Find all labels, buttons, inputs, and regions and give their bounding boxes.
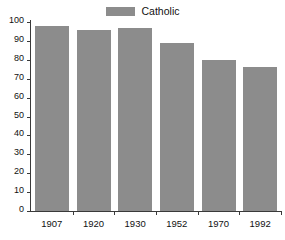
y-axis-tick-label: 0 bbox=[19, 205, 24, 214]
bar-1952 bbox=[160, 43, 194, 211]
x-axis-tick-label: 1920 bbox=[83, 219, 104, 229]
y-axis-tick-label: 100 bbox=[9, 16, 24, 25]
legend-swatch-icon bbox=[106, 7, 135, 16]
x-axis-tick-mark bbox=[156, 211, 157, 215]
x-axis-tick-label: 1907 bbox=[41, 219, 62, 229]
x-axis-tick-mark bbox=[73, 211, 74, 215]
y-axis-tick-label: 30 bbox=[14, 148, 24, 157]
plot-area bbox=[31, 22, 281, 211]
y-axis-tick-label: 50 bbox=[14, 111, 24, 120]
y-axis-tick-label: 70 bbox=[14, 73, 24, 82]
x-axis-tick-mark bbox=[281, 211, 282, 215]
chart-legend: Catholic bbox=[0, 3, 285, 19]
y-axis-tick-mark bbox=[27, 211, 31, 212]
bar-1920 bbox=[77, 30, 111, 211]
y-axis-tick-label: 60 bbox=[14, 92, 24, 101]
x-axis-tick-mark bbox=[239, 211, 240, 215]
bar-1992 bbox=[243, 67, 277, 211]
x-axis-tick-label: 1970 bbox=[208, 219, 229, 229]
bar-chart: Catholic 1009080706050403020100 19071920… bbox=[0, 0, 285, 240]
y-axis-tick-label: 80 bbox=[14, 54, 24, 63]
x-axis-tick-label: 1930 bbox=[125, 219, 146, 229]
x-axis-tick-mark bbox=[198, 211, 199, 215]
y-axis-tick-label: 20 bbox=[14, 167, 24, 176]
bar-1907 bbox=[35, 26, 69, 211]
y-axis-tick-label: 10 bbox=[14, 186, 24, 195]
x-axis-tick-mark bbox=[114, 211, 115, 215]
y-axis-tick-label: 90 bbox=[14, 35, 24, 44]
bar-1930 bbox=[118, 28, 152, 211]
x-axis-tick-label: 1952 bbox=[166, 219, 187, 229]
legend-label: Catholic bbox=[142, 6, 180, 17]
bar-1970 bbox=[202, 60, 236, 211]
legend-entry-catholic: Catholic bbox=[106, 6, 180, 17]
x-axis-tick-label: 1992 bbox=[250, 219, 271, 229]
y-axis-tick-label: 40 bbox=[14, 129, 24, 138]
